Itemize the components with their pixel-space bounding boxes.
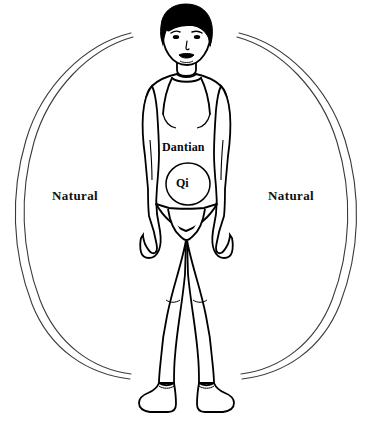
arc-right-inner xyxy=(237,37,348,374)
mouth xyxy=(179,54,194,59)
label-dantian: Dantian xyxy=(162,140,205,155)
leg-right-outline xyxy=(187,209,214,383)
eye-left-icon xyxy=(173,35,179,39)
arm-right-outline xyxy=(212,86,232,258)
label-qi: Qi xyxy=(176,176,189,191)
leg-left-outline xyxy=(159,209,186,383)
label-natural-left: Natural xyxy=(52,188,98,204)
diagram-canvas xyxy=(0,0,373,424)
qigong-diagram: Natural Natural Dantian Qi xyxy=(0,0,373,424)
eye-right-icon xyxy=(194,35,200,39)
standing-human-figure xyxy=(139,4,234,412)
arc-left-outer xyxy=(15,33,131,379)
arc-right-outer xyxy=(239,33,356,379)
arm-left-outline xyxy=(140,86,160,258)
label-natural-right: Natural xyxy=(268,188,314,204)
arc-left-inner xyxy=(24,37,133,374)
